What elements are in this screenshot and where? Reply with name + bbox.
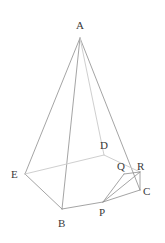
- edge-D-E: [25, 155, 104, 174]
- edge-P-R: [103, 172, 140, 202]
- vertex-label-d: D: [100, 140, 108, 151]
- vertex-label-a: A: [76, 20, 84, 31]
- edge-P-C: [103, 190, 140, 202]
- vertex-label-q: Q: [117, 161, 125, 172]
- edge-B-P: [62, 202, 103, 209]
- edge-A-E: [25, 38, 80, 174]
- vertex-label-p: P: [99, 207, 105, 218]
- vertex-label-e: E: [11, 169, 18, 180]
- edge-A-B: [62, 38, 80, 209]
- geometry-figure: AEBPCRQD: [0, 0, 165, 243]
- vertex-label-c: C: [143, 186, 150, 197]
- edge-A-D: [80, 38, 104, 155]
- edge-E-B: [25, 174, 62, 209]
- pyramid-diagram-svg: [0, 0, 165, 243]
- vertex-label-b: B: [58, 218, 65, 229]
- vertex-label-r: R: [137, 161, 144, 172]
